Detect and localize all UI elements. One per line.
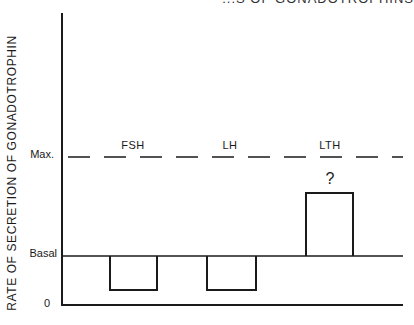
bar-lh — [207, 256, 256, 290]
y-tick-zero: 0 — [10, 297, 50, 309]
bar-fsh — [110, 256, 157, 290]
y-tick-max: Max. — [14, 148, 54, 160]
bar-lth — [306, 193, 353, 256]
y-tick-basal: Basal — [17, 247, 57, 259]
category-label-fsh: FSH — [108, 139, 158, 151]
category-label-lh: LH — [205, 139, 255, 151]
category-label-lth: LTH — [305, 139, 355, 151]
chart-plot — [0, 0, 414, 325]
uncertainty-annotation: ? — [320, 170, 340, 188]
